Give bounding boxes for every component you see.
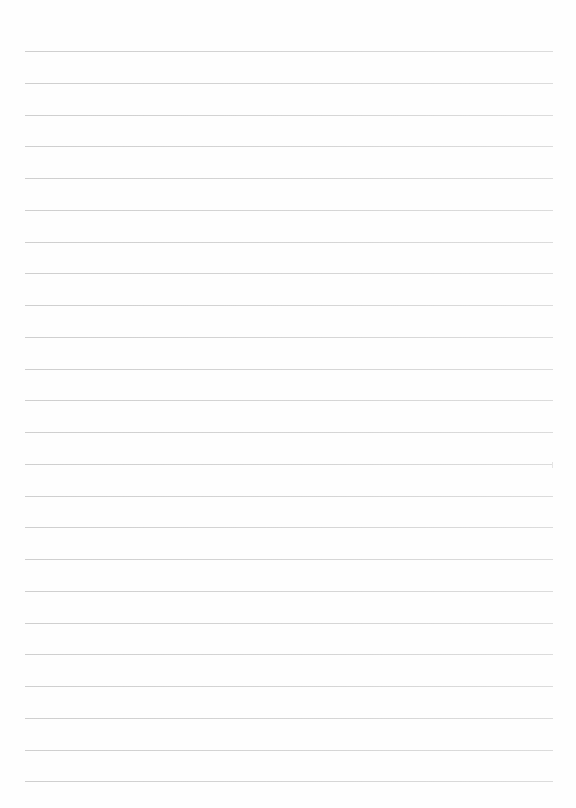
ruled-line xyxy=(25,305,553,306)
ruled-line xyxy=(25,591,553,592)
lined-paper-page xyxy=(0,0,576,808)
ruled-line xyxy=(25,432,553,433)
ruled-line xyxy=(25,273,553,274)
ruled-line xyxy=(25,527,553,528)
ruled-line xyxy=(25,400,553,401)
ruled-line xyxy=(25,654,553,655)
ruled-line xyxy=(25,210,553,211)
ruled-line xyxy=(25,178,553,179)
ruled-line xyxy=(25,559,553,560)
ruled-line xyxy=(25,242,553,243)
ruled-line xyxy=(25,83,553,84)
ruled-line xyxy=(25,51,553,52)
ruled-line xyxy=(25,781,553,782)
ruled-line xyxy=(25,369,553,370)
ruled-line xyxy=(25,623,553,624)
ruled-line xyxy=(25,750,553,751)
ruled-line xyxy=(25,686,553,687)
ruled-line xyxy=(25,496,553,497)
margin-mark xyxy=(552,462,553,468)
ruled-line xyxy=(25,718,553,719)
ruled-line xyxy=(25,146,553,147)
ruled-line xyxy=(25,115,553,116)
ruled-line xyxy=(25,464,553,465)
ruled-line xyxy=(25,337,553,338)
